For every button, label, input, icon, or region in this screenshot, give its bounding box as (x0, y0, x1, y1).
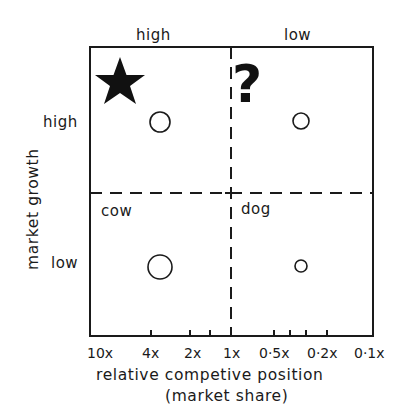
bubble-dog (295, 260, 307, 272)
star-icon (95, 57, 145, 104)
quadrant-label-dog: dog (241, 200, 271, 218)
bubble-cow (148, 255, 172, 279)
bubble-question (293, 113, 309, 129)
x-tick-0-5x: 0·5x (259, 345, 290, 361)
row-header-high: high (43, 113, 78, 131)
x-tick-0-2x: 0·2x (307, 345, 338, 361)
row-header-low: low (51, 254, 78, 272)
quadrant-label-cow: cow (101, 202, 132, 220)
x-tick-4x: 4x (142, 345, 159, 361)
growth-share-matrix: high low high low market growth ? cow do… (0, 0, 415, 419)
question-mark-icon: ? (232, 54, 262, 114)
bubble-star (150, 112, 170, 132)
x-axis-subtitle: (market share) (165, 387, 288, 405)
column-header-high: high (136, 26, 171, 44)
x-tick-10x: 10x (87, 345, 113, 361)
x-tick-0-1x: 0·1x (354, 345, 385, 361)
x-axis-title: relative competive position (96, 366, 324, 384)
y-axis-title: market growth (24, 148, 42, 270)
column-header-low: low (284, 26, 311, 44)
x-tick-1x: 1x (223, 345, 240, 361)
x-tick-2x: 2x (184, 345, 201, 361)
